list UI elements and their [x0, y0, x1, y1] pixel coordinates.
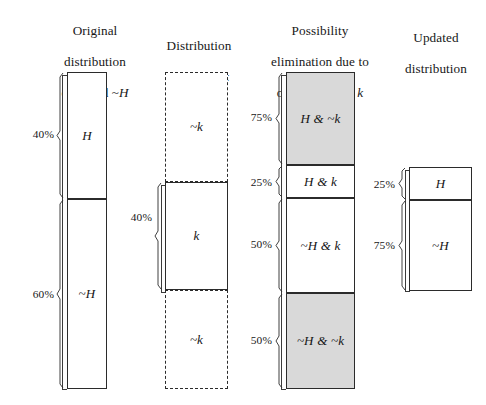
percent-label-original-H: 40% — [8, 128, 54, 140]
percent-label-updated-notH: 75% — [351, 239, 395, 251]
segment-label-text: H & ~k — [300, 111, 340, 127]
percent-label-updated-H: 25% — [351, 178, 395, 190]
percent-label-notH-and-k: 50% — [228, 238, 272, 250]
segment-label-k-top-notk: ~k — [165, 72, 228, 182]
segment-label-notH-and-k: ~H & k — [286, 198, 355, 293]
percent-label-original-notH: 60% — [8, 288, 54, 300]
segment-label-original-H: H — [67, 72, 107, 199]
segment-label-notH-and-notk: ~H & ~k — [286, 293, 355, 389]
header-line: elimination due to — [249, 54, 391, 69]
percent-label-k: 40% — [106, 211, 152, 223]
segment-label-text: ~H & k — [300, 238, 340, 254]
segment-label-k-bottom-notk: ~k — [165, 290, 228, 389]
header-line: distribution — [388, 61, 484, 76]
percent-label-H-and-notk: 75% — [228, 111, 272, 123]
column-header-updated-distribution: Updated distribution — [388, 15, 484, 92]
segment-label-updated-notH: ~H — [409, 200, 472, 291]
percent-label-notH-and-notk: 50% — [228, 334, 272, 346]
segment-label-text: H & k — [304, 174, 337, 190]
segment-label-k: k — [165, 182, 228, 290]
header-line: Distribution — [139, 38, 259, 53]
segment-label-text: ~H & ~k — [297, 333, 344, 349]
percent-label-H-and-k: 25% — [228, 176, 272, 188]
segment-label-original-notH: ~H — [67, 199, 107, 389]
segment-label-H-and-k: H & k — [286, 165, 355, 198]
segment-label-H-and-notk: H & ~k — [286, 72, 355, 165]
header-line: Updated — [388, 30, 484, 45]
bayesian-updating-diagram: Original distribution of H and ~H Distri… — [0, 0, 486, 405]
segment-label-updated-H: H — [409, 167, 472, 200]
header-line: Possibility — [249, 23, 391, 38]
